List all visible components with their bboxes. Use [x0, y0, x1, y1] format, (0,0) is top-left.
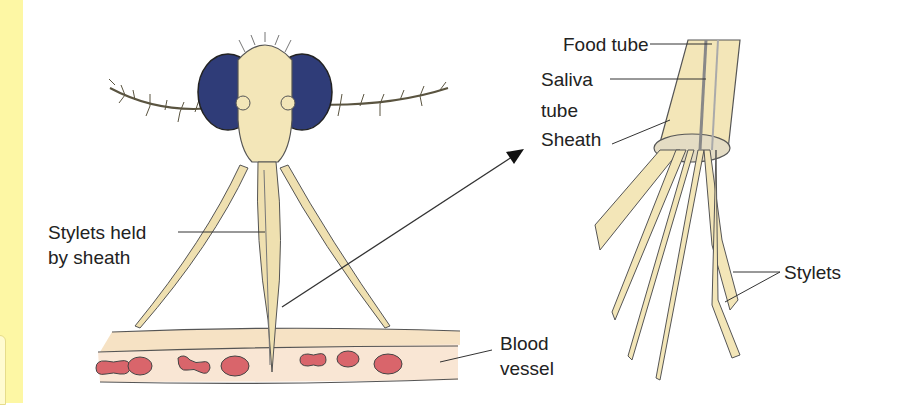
arrow-head-icon — [506, 149, 524, 164]
palp-right — [280, 165, 390, 328]
label-blood: Blood — [500, 332, 549, 356]
label-by-sheath: by sheath — [48, 246, 130, 270]
label-sheath: Sheath — [541, 128, 601, 152]
magnified-mouthparts — [595, 40, 740, 380]
label-saliva: Saliva — [541, 68, 593, 92]
label-stylets: Stylets — [784, 261, 841, 285]
label-vessel: vessel — [500, 357, 554, 381]
label-food-tube: Food tube — [563, 33, 649, 57]
label-tube: tube — [541, 99, 578, 123]
blood-vessel — [96, 328, 460, 383]
label-stylets-held: Stylets held — [48, 221, 146, 245]
palp-left — [135, 165, 248, 328]
